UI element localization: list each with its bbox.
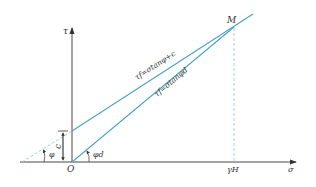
developed-strength-line [72,27,234,162]
cohesion-label: c [53,144,63,149]
phi-d-arc [87,151,89,162]
origin-label: O [67,164,75,174]
developed-line-label: τf=σtanφd [153,65,190,98]
x-axis-label: σ [288,165,294,174]
gamma-h-label: γH [227,165,240,174]
dashed-extension [22,131,72,162]
phi-label: φ [49,150,55,159]
strength-line-with-cohesion [72,14,253,131]
phi-arc [44,150,45,162]
phi-d-label: φd [93,150,104,159]
point-m-label: M [226,15,237,25]
y-axis-label: τ [63,26,69,36]
strength-diagram: τ σ O M γH c φ φd τf=σtanφ+c τf=σtanφd [0,0,316,187]
